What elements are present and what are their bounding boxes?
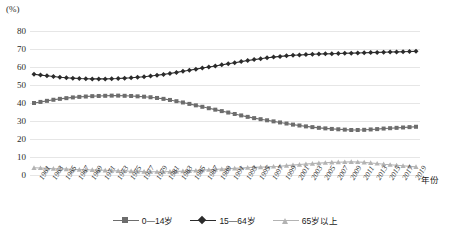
chart-legend: 0—14岁15—64岁65岁以上 bbox=[0, 214, 451, 226]
data-point-diamond bbox=[232, 60, 237, 65]
y-axis-tick-label: 10 bbox=[6, 152, 26, 162]
y-axis-tick-label: 70 bbox=[6, 44, 26, 54]
data-point-diamond bbox=[44, 73, 49, 78]
plot-area bbox=[30, 31, 420, 175]
data-point-diamond bbox=[135, 75, 140, 80]
data-point-diamond bbox=[362, 50, 367, 55]
data-point-diamond bbox=[213, 63, 218, 68]
data-point-diamond bbox=[388, 50, 393, 55]
y-axis-tick-label: 20 bbox=[6, 134, 26, 144]
data-point-square bbox=[220, 109, 224, 113]
legend-label: 0—14岁 bbox=[142, 214, 174, 226]
data-point-diamond bbox=[226, 61, 231, 66]
y-axis-tick-label: 0 bbox=[6, 170, 26, 180]
data-point-diamond bbox=[245, 58, 250, 63]
y-axis-tick-label: 30 bbox=[6, 116, 26, 126]
data-point-square bbox=[401, 125, 405, 129]
data-point-diamond bbox=[129, 75, 134, 80]
legend-item[interactable]: 15—64岁 bbox=[190, 214, 255, 226]
data-point-square bbox=[71, 95, 75, 99]
data-point-diamond bbox=[83, 76, 88, 81]
data-point-square bbox=[181, 100, 185, 104]
data-point-diamond bbox=[148, 74, 153, 79]
data-point-diamond bbox=[342, 51, 347, 56]
data-point-square bbox=[200, 105, 204, 109]
legend-marker bbox=[190, 215, 216, 225]
data-point-square bbox=[103, 94, 107, 98]
data-point-diamond bbox=[375, 50, 380, 55]
data-point-diamond bbox=[174, 70, 179, 75]
legend-square-icon bbox=[122, 217, 128, 223]
data-point-square bbox=[375, 127, 379, 131]
data-point-square bbox=[123, 94, 127, 98]
data-point-diamond bbox=[252, 57, 257, 62]
data-point-square bbox=[32, 101, 36, 105]
data-point-diamond bbox=[316, 52, 321, 57]
data-point-diamond bbox=[407, 49, 412, 54]
data-point-square bbox=[174, 99, 178, 103]
data-point-diamond bbox=[32, 72, 37, 77]
data-point-square bbox=[90, 94, 94, 98]
data-point-square bbox=[116, 94, 120, 98]
data-point-diamond bbox=[70, 76, 75, 81]
data-point-square bbox=[187, 102, 191, 106]
data-point-square bbox=[395, 126, 399, 130]
y-axis-unit-label: (%) bbox=[6, 4, 20, 14]
data-point-square bbox=[278, 120, 282, 124]
data-point-diamond bbox=[394, 49, 399, 54]
x-axis-title: 年份 bbox=[421, 173, 439, 185]
x-axis-tick-labels: 1961196319651967196919711973197519771979… bbox=[30, 177, 420, 217]
series-line bbox=[34, 51, 416, 79]
data-point-square bbox=[58, 97, 62, 101]
data-point-square bbox=[207, 106, 211, 110]
data-point-diamond bbox=[381, 50, 386, 55]
data-point-square bbox=[239, 113, 243, 117]
legend-triangle-icon bbox=[282, 218, 288, 224]
data-point-square bbox=[388, 126, 392, 130]
data-point-square bbox=[259, 117, 263, 121]
data-point-square bbox=[408, 125, 412, 129]
data-point-square bbox=[343, 128, 347, 132]
legend-label: 15—64岁 bbox=[219, 214, 255, 226]
data-point-diamond bbox=[258, 56, 263, 61]
data-point-square bbox=[136, 94, 140, 98]
data-point-square bbox=[265, 118, 269, 122]
data-point-square bbox=[330, 127, 334, 131]
data-point-diamond bbox=[219, 62, 224, 67]
data-point-square bbox=[414, 125, 418, 129]
data-point-square bbox=[323, 126, 327, 130]
data-point-diamond bbox=[265, 55, 270, 60]
data-point-square bbox=[349, 128, 353, 132]
data-point-square bbox=[51, 98, 55, 102]
legend-item[interactable]: 0—14岁 bbox=[113, 214, 174, 226]
data-point-diamond bbox=[180, 69, 185, 74]
data-point-square bbox=[194, 103, 198, 107]
legend-marker bbox=[273, 215, 299, 225]
data-point-square bbox=[317, 126, 321, 130]
data-point-square bbox=[233, 112, 237, 116]
data-point-diamond bbox=[368, 50, 373, 55]
data-point-diamond bbox=[278, 54, 283, 59]
data-point-diamond bbox=[142, 74, 147, 79]
legend-marker bbox=[113, 215, 139, 225]
y-axis-tick-label: 60 bbox=[6, 62, 26, 72]
data-point-square bbox=[142, 95, 146, 99]
data-point-diamond bbox=[349, 51, 354, 56]
legend-diamond-icon bbox=[198, 216, 206, 224]
data-point-square bbox=[129, 94, 133, 98]
data-point-diamond bbox=[187, 68, 192, 73]
data-point-diamond bbox=[116, 76, 121, 81]
data-point-diamond bbox=[90, 76, 95, 81]
data-point-diamond bbox=[51, 74, 56, 79]
data-point-diamond bbox=[122, 76, 127, 81]
data-point-diamond bbox=[200, 66, 205, 71]
data-point-square bbox=[155, 96, 159, 100]
data-point-square bbox=[382, 127, 386, 131]
data-point-square bbox=[310, 125, 314, 129]
data-point-diamond bbox=[329, 51, 334, 56]
data-point-square bbox=[168, 98, 172, 102]
data-point-square bbox=[77, 95, 81, 99]
legend-item[interactable]: 65岁以上 bbox=[273, 214, 338, 226]
data-point-diamond bbox=[336, 51, 341, 56]
data-point-diamond bbox=[297, 52, 302, 57]
